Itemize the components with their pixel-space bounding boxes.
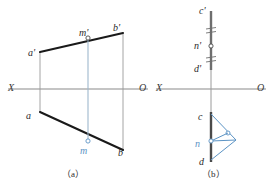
panel-b-label-n-prime: n' (194, 41, 201, 51)
panel-a-label-a-prime: a' (28, 48, 35, 58)
panel-a-axis-label-o: O (139, 83, 146, 93)
panel-a-label-b-prime: b' (113, 23, 120, 33)
panel-a-point-m (86, 139, 90, 143)
figure-drawing-canvas (0, 0, 271, 189)
panel-b-construction-aux-tie (211, 133, 228, 141)
panel-a-label-m: m (80, 146, 87, 156)
panel-b-label-c: c (198, 112, 202, 122)
panel-b-construction-c-to-aux (211, 114, 236, 140)
panel-b-axis-label-o: O (257, 83, 264, 93)
panel-b-caption: （b） (202, 170, 225, 179)
panel-b-construction-aux-to-d (211, 140, 236, 160)
panel-b-label-d: d (199, 157, 204, 167)
panel-b-point-n (209, 139, 213, 143)
panel-b-group (156, 11, 266, 162)
panel-a-label-m-prime: m' (79, 28, 88, 38)
panel-b-label-d-prime: d' (194, 64, 201, 74)
panel-b-construction-n-parallel (211, 140, 236, 141)
panel-b-label-n: n (195, 139, 200, 149)
panel-b-label-c-prime: c' (199, 6, 206, 16)
panel-b-axis-label-x: X (156, 83, 162, 93)
panel-b-point-n-prime (209, 44, 213, 48)
panel-a-caption: （a） (62, 170, 84, 179)
panel-a-axis-label-x: X (8, 83, 14, 93)
panel-a-label-b: b (118, 148, 123, 158)
panel-a-label-a: a (26, 111, 31, 121)
descriptive-geometry-figure: X O a' m' b' a m b （a） X O c' n' d' c n … (0, 0, 271, 189)
